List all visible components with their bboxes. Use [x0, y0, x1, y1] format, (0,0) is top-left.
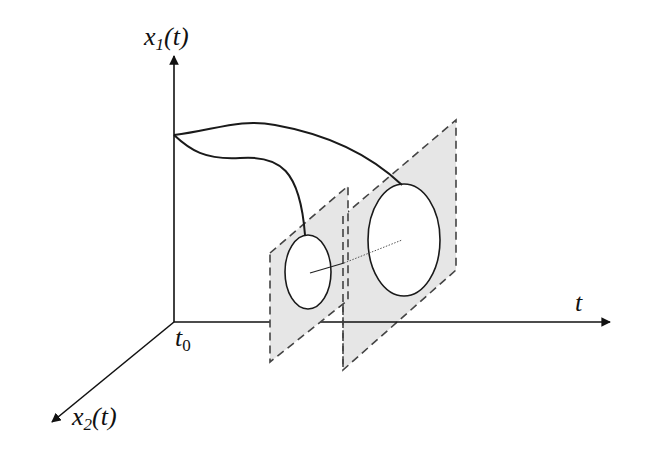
near-cross-section-ellipse — [285, 235, 331, 309]
diagram-canvas: x1(t) t x2(t) t0 — [0, 0, 649, 457]
tube-upper-curve — [174, 123, 402, 185]
x2-axis-label: x2(t) — [71, 402, 117, 434]
origin-label: t0 — [175, 323, 191, 355]
far-cross-section-ellipse — [368, 184, 440, 296]
x1-axis-label: x1(t) — [143, 22, 189, 54]
t-axis-label: t — [575, 288, 583, 317]
tube-lower-curve — [174, 135, 305, 235]
